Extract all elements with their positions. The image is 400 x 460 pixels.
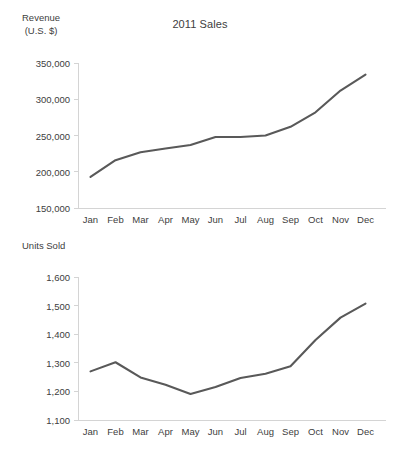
revenue-plot-area [0,0,400,230]
units-sold-chart: Units Sold 1,1001,2001,3001,4001,5001,60… [0,230,400,460]
sales-charts-figure: 2011 Sales Revenue(U.S. $) 150,000200,00… [0,0,400,460]
y-axis-ticks [74,277,78,420]
units-sold-plot-area [0,230,400,460]
revenue-series-line [91,75,366,177]
revenue-chart: 2011 Sales Revenue(U.S. $) 150,000200,00… [0,0,400,230]
units-sold-series-line [91,304,366,394]
y-axis-ticks [74,63,78,208]
